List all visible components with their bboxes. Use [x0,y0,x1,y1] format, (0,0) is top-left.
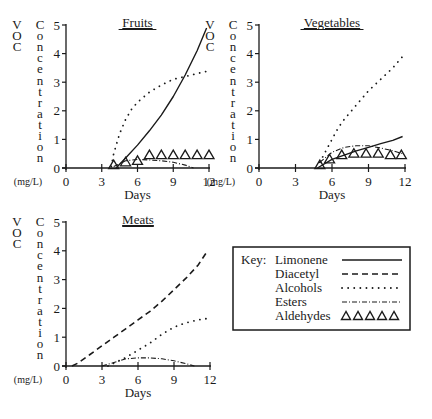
x-axis-label: Days [125,385,152,400]
x-tick-label: 12 [204,372,217,387]
aldehydes-marker [204,150,214,159]
x-tick-label: 12 [399,174,412,189]
x-tick-label: 3 [99,372,106,387]
chart-title: Vegetables [304,15,360,30]
svg-text:(mg/L): (mg/L) [14,176,42,188]
x-tick-label: 9 [365,174,372,189]
svg-text:C: C [13,236,22,251]
x-axis-label: Days [124,187,151,202]
x-tick-label: 3 [99,174,106,189]
y-tick-label: 0 [54,161,61,176]
x-tick-label: 0 [63,372,70,387]
series-alcohols [320,57,403,163]
legend-label-diacetyl: Diacetyl [275,266,319,281]
aldehydes-marker [373,149,383,158]
y-axis-label: VOCConcentration(mg/L) [12,17,44,188]
y-tick-label: 3 [54,272,61,287]
x-axis-label: Days [319,187,346,202]
aldehydes-marker [144,150,154,159]
aldehydes-marker [192,150,202,159]
chart-meats: VOCConcentration(mg/L)012345036912DaysMe… [12,212,216,400]
svg-text:(mg/L): (mg/L) [207,176,235,188]
chart-title: Fruits [122,15,152,30]
chart-title: Meats [122,212,154,227]
x-tick-label: 0 [256,174,263,189]
aldehydes-marker [361,149,371,158]
y-tick-label: 5 [247,18,254,33]
y-tick-label: 5 [54,18,61,33]
y-tick-label: 1 [247,132,254,147]
chart-vegetables: VOCConcentration(mg/L)012345036912DaysVe… [205,15,411,202]
y-axis-label: VOCConcentration(mg/L) [12,214,44,386]
aldehydes-marker [156,150,166,159]
y-tick-label: 3 [247,75,254,90]
legend-label-esters: Esters [275,294,307,309]
legend-label-limonene: Limonene [275,252,328,267]
y-tick-label: 2 [54,103,61,118]
y-tick-label: 3 [54,75,61,90]
svg-text:n: n [37,150,44,165]
aldehydes-marker [385,150,395,159]
series-esters [114,159,194,168]
y-tick-label: 1 [54,330,61,345]
y-tick-label: 5 [54,215,61,230]
y-tick-label: 0 [54,359,61,374]
svg-text:n: n [230,150,237,165]
svg-text:C: C [13,39,22,54]
legend-label-aldehydes: Aldehydes [275,308,331,323]
legend-title: Key: [241,252,266,267]
aldehydes-marker [396,150,406,159]
x-tick-label: 9 [170,174,177,189]
svg-text:(mg/L): (mg/L) [14,374,42,386]
series-alcohols [108,319,208,367]
y-tick-label: 1 [54,132,61,147]
x-tick-label: 3 [292,174,299,189]
y-tick-label: 4 [247,46,254,61]
aldehydes-marker [180,150,190,159]
x-tick-label: 0 [63,174,70,189]
y-tick-label: 0 [247,161,254,176]
y-tick-label: 4 [54,243,61,258]
series-esters [102,358,194,366]
svg-text:C: C [206,39,215,54]
svg-text:n: n [37,347,44,362]
series-limonene [116,28,207,168]
x-tick-label: 9 [171,372,178,387]
y-tick-label: 4 [54,46,61,61]
legend-label-alcohols: Alcohols [275,280,322,295]
chart-fruits: VOCConcentration(mg/L)012345036912DaysFr… [12,15,215,202]
y-tick-label: 2 [247,103,254,118]
voc-figure: VOCConcentration(mg/L)012345036912DaysFr… [0,0,432,419]
aldehydes-marker [168,150,178,159]
y-axis-label: VOCConcentration(mg/L) [205,17,237,188]
y-tick-label: 2 [54,301,61,316]
legend: Key:LimoneneDiacetylAlcoholsEstersAldehy… [233,247,410,330]
